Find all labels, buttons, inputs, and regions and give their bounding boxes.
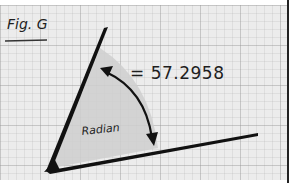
- figure-label-underline: [5, 40, 47, 41]
- figure-label: Fig. G: [7, 16, 48, 32]
- radian-diagram: Fig. G = 57.2958 Radian: [0, 0, 292, 189]
- equation-text: = 57.2958: [130, 63, 224, 83]
